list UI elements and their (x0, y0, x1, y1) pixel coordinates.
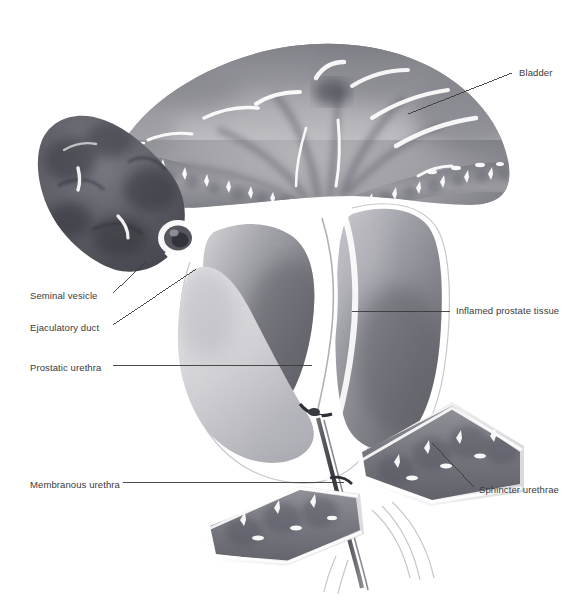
label-inflamed-prostate: Inflamed prostate tissue (456, 306, 559, 316)
label-membranous-urethra: Membranous urethra (30, 480, 120, 490)
label-seminal-vesicle: Seminal vesicle (30, 291, 98, 301)
label-prostatic-urethra: Prostatic urethra (30, 363, 101, 373)
anatomy-artwork (0, 0, 582, 605)
label-bladder: Bladder (519, 68, 552, 78)
medical-illustration-figure: BladderSeminal vesicleEjaculatory ductPr… (0, 0, 582, 605)
label-ejaculatory-duct: Ejaculatory duct (30, 323, 99, 333)
label-sphincter-urethrae: Sphincter urethrae (479, 485, 559, 495)
